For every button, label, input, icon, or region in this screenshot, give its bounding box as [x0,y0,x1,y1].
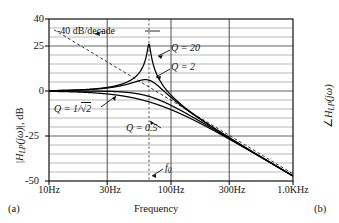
annotation-q-2: Q = 2 [171,61,195,72]
y-tick-label-0: 0 [22,85,44,96]
annotation-q-1-over-sqrt2: Q = 1/√2 [54,103,91,114]
annotation-q-20: Q = 20 [171,42,200,53]
y-tick-label-25: 25 [22,40,44,51]
annotation-f0: f0 [165,162,172,175]
x-tick-label-30hz: 30Hz [90,184,130,195]
x-tick-label-300hz: 300Hz [209,184,255,195]
annotation-q-0-5: Q = 0.5 [126,122,157,133]
y-tick-label-40: 40 [22,13,44,24]
panel-label-b: (b) [314,203,326,214]
x-axis-title: Frequency [134,203,178,214]
panel-label-a: (a) [8,203,20,214]
annotation-asymptote-slope: -40 dB/decade [57,25,115,36]
y-axis-title-left: |HLP(jω)|, dB [14,108,27,163]
x-tick-label-1khz: 1.0KHz [269,184,317,195]
x-tick-label-10hz: 10Hz [29,184,69,195]
x-tick-label-100hz: 100Hz [148,184,194,195]
y-axis-title-right: ∠HLP(jω) [322,84,336,128]
